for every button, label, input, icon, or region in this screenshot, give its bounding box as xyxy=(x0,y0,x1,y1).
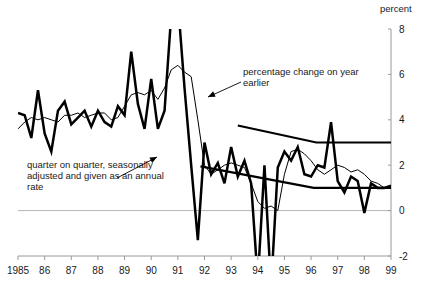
x-tick-label: 88 xyxy=(92,265,104,276)
y-tick-label: 0 xyxy=(399,205,405,216)
x-tick-label: 93 xyxy=(226,265,238,276)
chart-container: -202468 19858687888990919293949596979899… xyxy=(0,0,436,293)
y-tick-label: 4 xyxy=(399,114,405,125)
x-tick-label: 87 xyxy=(66,265,78,276)
x-tick-labels: 19858687888990919293949596979899 xyxy=(7,265,397,276)
x-tick-label: 91 xyxy=(172,265,184,276)
x-tick-label: 90 xyxy=(146,265,158,276)
x-tick-label: 94 xyxy=(252,265,264,276)
x-tick-label: 95 xyxy=(279,265,291,276)
x-tick-label: 92 xyxy=(199,265,211,276)
annotation-text-line: earlier xyxy=(243,77,269,88)
percent-unit-label: percent xyxy=(380,3,412,14)
x-tick-label: 86 xyxy=(39,265,51,276)
y-tick-label: -2 xyxy=(399,251,408,262)
annotation-text-line: quarter on quarter, seasonally xyxy=(27,159,153,170)
y-tick-label: 6 xyxy=(399,69,405,80)
x-tick-label: 89 xyxy=(119,265,131,276)
annotation-text-line: percentage change on year xyxy=(243,66,359,77)
x-tick-label: 96 xyxy=(306,265,318,276)
annotation-text-line: adjusted and given as an annual xyxy=(27,170,164,181)
chart-figure: -202468 19858687888990919293949596979899… xyxy=(0,0,436,293)
plot-background xyxy=(0,0,436,293)
x-tick-label: 97 xyxy=(332,265,344,276)
x-tick-label: 99 xyxy=(385,265,397,276)
annotation-text-line: rate xyxy=(27,181,43,192)
y-tick-label: 8 xyxy=(399,24,405,35)
x-tick-label: 98 xyxy=(359,265,371,276)
x-tick-label: 1985 xyxy=(7,265,30,276)
y-tick-label: 2 xyxy=(399,160,405,171)
